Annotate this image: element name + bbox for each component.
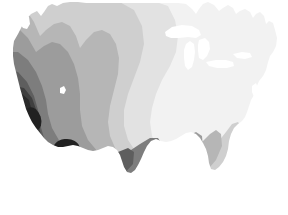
us-contour-map: [0, 0, 288, 215]
contour-map-figure: Contiguous United States contour map: [0, 0, 288, 215]
contour-band-group: [0, 0, 288, 215]
